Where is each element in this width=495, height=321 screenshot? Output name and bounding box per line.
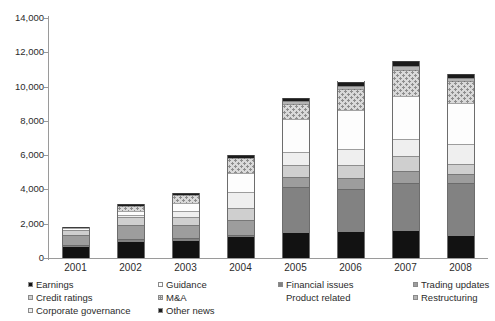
legend-swatch-icon (278, 282, 283, 287)
legend-swatch-icon (28, 282, 33, 287)
legend-label: Financial issues (286, 279, 354, 290)
legend-item[interactable]: Guidance (158, 279, 207, 290)
x-axis-label-layer: 20012002200320042005200620072008 (0, 0, 495, 321)
legend-swatch-icon (28, 295, 33, 300)
legend-swatch-icon (278, 295, 283, 300)
legend-item[interactable]: Financial issues (278, 279, 354, 290)
legend-item[interactable]: Corporate governance (28, 305, 131, 316)
x-axis-label-2002: 2002 (103, 262, 159, 274)
legend-swatch-icon (413, 295, 418, 300)
legend-item[interactable]: Trading updates (413, 279, 489, 290)
legend-label: Trading updates (421, 279, 489, 290)
legend-item[interactable]: Earnings (28, 279, 74, 290)
legend-swatch-icon (158, 295, 163, 300)
legend-item[interactable]: Restructuring (413, 292, 478, 303)
x-axis-label-2008: 2008 (433, 262, 489, 274)
legend-label: Corporate governance (36, 305, 131, 316)
legend-label: Earnings (36, 279, 74, 290)
legend-label: M&A (166, 292, 187, 303)
legend-item[interactable]: Other news (158, 305, 215, 316)
x-axis-label-2001: 2001 (48, 262, 104, 274)
x-axis-label-2004: 2004 (213, 262, 269, 274)
legend-label: Guidance (166, 279, 207, 290)
x-axis-label-2006: 2006 (323, 262, 379, 274)
legend-label: Credit ratings (36, 292, 93, 303)
legend-label: Product related (286, 292, 350, 303)
x-axis-label-2007: 2007 (378, 262, 434, 274)
stacked-bar-chart: 02,0004,0006,0008,00010,00012,00014,000 … (0, 0, 495, 321)
legend-swatch-icon (28, 308, 33, 313)
legend-swatch-icon (158, 308, 163, 313)
legend-item[interactable]: Product related (278, 292, 350, 303)
legend-item[interactable]: M&A (158, 292, 187, 303)
x-axis-label-2003: 2003 (158, 262, 214, 274)
x-axis-label-2005: 2005 (268, 262, 324, 274)
legend-swatch-icon (413, 282, 418, 287)
legend-label: Other news (166, 305, 215, 316)
legend-swatch-icon (158, 282, 163, 287)
legend-label: Restructuring (421, 292, 478, 303)
chart-legend: EarningsGuidanceFinancial issuesTrading … (28, 279, 490, 319)
legend-item[interactable]: Credit ratings (28, 292, 93, 303)
